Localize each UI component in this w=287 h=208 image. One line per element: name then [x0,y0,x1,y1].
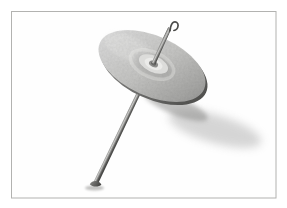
spindle-photo-svg [0,0,287,208]
photo [0,0,287,208]
